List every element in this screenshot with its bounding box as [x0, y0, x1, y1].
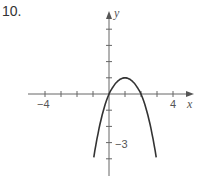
- y-axis-label: y: [113, 6, 120, 20]
- y-axis-arrow-icon: [106, 11, 112, 19]
- x-tick-label-4: 4: [170, 98, 176, 110]
- y-tick-label-neg3: −3: [115, 138, 128, 150]
- x-tick-label-neg4: −4: [37, 98, 50, 110]
- graph: −4 4 −3 x y: [0, 0, 206, 187]
- x-axis-label: x: [186, 97, 193, 111]
